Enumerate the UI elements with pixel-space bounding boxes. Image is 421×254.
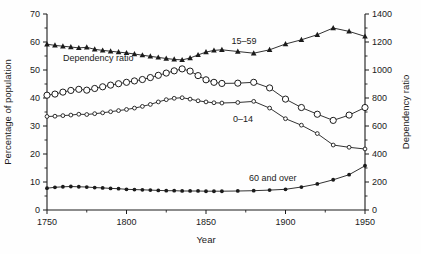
marker-open-circle-small xyxy=(117,109,121,113)
marker-open-circle-large xyxy=(346,112,352,118)
marker-filled-circle xyxy=(331,178,335,182)
y-left-tick-label: 10 xyxy=(30,177,40,187)
marker-triangle xyxy=(84,44,90,49)
marker-open-circle-small xyxy=(109,110,113,114)
marker-open-circle-large xyxy=(52,91,58,97)
marker-filled-circle xyxy=(164,189,168,193)
marker-filled-circle xyxy=(53,185,57,189)
marker-open-circle-small xyxy=(69,113,73,117)
marker-filled-circle xyxy=(284,187,288,191)
y-right-tick-label: 1000 xyxy=(372,65,392,75)
population-age-structure-figure: 0102030405060700200400600800100012001400… xyxy=(0,0,421,254)
marker-filled-circle xyxy=(236,189,240,193)
marker-open-circle-small xyxy=(172,96,176,100)
marker-open-circle-small xyxy=(220,101,224,105)
marker-open-circle-large xyxy=(84,87,90,93)
marker-open-circle-large xyxy=(187,68,193,74)
marker-open-circle-large xyxy=(298,104,304,110)
marker-filled-circle xyxy=(69,185,73,189)
marker-open-circle-small xyxy=(268,106,272,110)
marker-open-circle-small xyxy=(252,99,256,103)
marker-open-circle-large xyxy=(235,80,241,86)
series-label-0: 15–59 xyxy=(231,36,256,46)
marker-open-circle-large xyxy=(139,76,145,82)
x-tick-label: 1850 xyxy=(196,217,216,227)
x-tick-label: 1750 xyxy=(37,217,57,227)
y-right-axis-title: Dependency ratio xyxy=(400,75,411,149)
marker-open-circle-large xyxy=(60,89,66,95)
y-right-tick-label: 200 xyxy=(372,177,387,187)
marker-open-circle-small xyxy=(196,99,200,103)
x-tick-label: 1900 xyxy=(275,217,295,227)
series-label-2: 0–14 xyxy=(233,114,253,124)
marker-open-circle-large xyxy=(267,85,273,91)
marker-open-circle-small xyxy=(133,106,137,110)
marker-open-circle-large xyxy=(100,84,106,90)
series-label-1: Dependency ratio xyxy=(63,53,134,63)
marker-open-circle-large xyxy=(147,74,153,80)
x-tick-label: 1950 xyxy=(355,217,375,227)
marker-open-circle-small xyxy=(180,96,184,100)
marker-open-circle-large xyxy=(314,111,320,117)
y-left-tick-label: 0 xyxy=(35,205,40,215)
marker-open-circle-small xyxy=(300,123,304,127)
marker-open-circle-small xyxy=(85,113,89,117)
y-left-tick-label: 40 xyxy=(30,93,40,103)
marker-open-circle-small xyxy=(164,98,168,102)
marker-open-circle-small xyxy=(148,103,152,107)
marker-open-circle-large xyxy=(171,68,177,74)
marker-open-circle-small xyxy=(331,143,335,147)
y-right-tick-label: 1400 xyxy=(372,9,392,19)
marker-open-circle-small xyxy=(315,132,319,136)
series-label-3: 60 and over xyxy=(249,173,297,183)
y-left-axis-title: Percentage of population xyxy=(2,59,13,165)
marker-filled-circle xyxy=(77,185,81,189)
marker-open-circle-large xyxy=(211,79,217,85)
marker-open-circle-large xyxy=(195,73,201,79)
marker-open-circle-small xyxy=(212,101,216,105)
marker-open-circle-large xyxy=(108,82,114,88)
marker-filled-circle xyxy=(212,189,216,193)
marker-open-circle-small xyxy=(188,97,192,101)
marker-open-circle-small xyxy=(53,114,57,118)
marker-open-circle-large xyxy=(362,104,368,110)
marker-open-circle-small xyxy=(347,145,351,149)
marker-open-circle-small xyxy=(204,100,208,104)
marker-open-circle-small xyxy=(363,147,367,151)
marker-open-circle-small xyxy=(45,115,49,119)
marker-filled-circle xyxy=(196,189,200,193)
marker-filled-circle xyxy=(148,188,152,192)
marker-filled-circle xyxy=(188,189,192,193)
marker-open-circle-small xyxy=(77,112,81,116)
marker-filled-circle xyxy=(45,186,49,190)
y-right-tick-label: 0 xyxy=(372,205,377,215)
marker-filled-circle xyxy=(268,188,272,192)
marker-filled-circle xyxy=(109,187,113,191)
y-left-tick-label: 30 xyxy=(30,121,40,131)
y-left-tick-label: 60 xyxy=(30,37,40,47)
marker-open-circle-large xyxy=(219,80,225,86)
marker-triangle xyxy=(219,47,225,52)
marker-filled-circle xyxy=(180,189,184,193)
marker-open-circle-small xyxy=(125,108,129,112)
marker-filled-circle xyxy=(172,189,176,193)
marker-open-circle-small xyxy=(156,100,160,104)
y-left-tick-label: 20 xyxy=(30,149,40,159)
marker-open-circle-large xyxy=(163,70,169,76)
marker-open-circle-large xyxy=(203,77,209,83)
marker-filled-circle xyxy=(85,185,89,189)
marker-open-circle-large xyxy=(179,66,185,72)
marker-filled-circle xyxy=(133,188,137,192)
marker-open-circle-large xyxy=(92,85,98,91)
series-line-2 xyxy=(47,98,365,149)
marker-open-circle-large xyxy=(123,79,129,85)
marker-open-circle-large xyxy=(44,92,50,98)
marker-open-circle-small xyxy=(141,105,145,109)
marker-open-circle-small xyxy=(93,112,97,116)
marker-open-circle-large xyxy=(76,86,82,92)
y-left-tick-label: 50 xyxy=(30,65,40,75)
marker-open-circle-small xyxy=(236,101,240,105)
marker-filled-circle xyxy=(204,189,208,193)
marker-filled-circle xyxy=(156,189,160,193)
marker-filled-circle xyxy=(363,164,367,168)
